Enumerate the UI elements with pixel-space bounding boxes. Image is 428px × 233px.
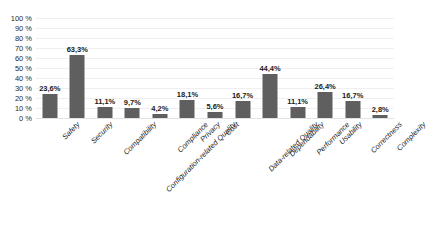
bar-group: 11,1% [284,18,312,118]
bar[interactable] [180,100,195,118]
bar[interactable] [373,115,388,118]
bar-group: 9,7% [119,18,147,118]
y-axis-tick-label: 10 % [15,104,32,113]
x-axis: SafetySecurityCompatibilityConfiguration… [36,120,394,230]
bar-value-label: 16,7% [232,91,253,100]
y-axis-tick-label: 30 % [15,84,32,93]
y-axis-tick-label: 40 % [15,74,32,83]
bar-value-label: 23,6% [39,84,60,93]
bar-group: 16,7% [339,18,367,118]
bar-value-label: 9,7% [124,98,141,107]
bar[interactable] [318,92,333,118]
bar-value-label: 5,6% [206,102,223,111]
bar[interactable] [207,112,222,118]
bar-value-label: 2,8% [372,105,389,114]
bar-value-label: 18,1% [177,90,198,99]
bar[interactable] [70,55,85,118]
y-axis-tick-label: 50 % [15,64,32,73]
bar-value-label: 11,1% [94,97,115,106]
y-axis-tick-label: 80 % [15,34,32,43]
y-axis-tick-label: 20 % [15,94,32,103]
bar[interactable] [263,74,278,118]
bar[interactable] [97,107,112,118]
bar-group: 5,6% [201,18,229,118]
bar-group: 23,6% [36,18,64,118]
bar[interactable] [125,108,140,118]
y-axis-tick-label: 0 % [19,114,32,123]
bar[interactable] [42,94,57,118]
bar[interactable] [290,107,305,118]
bar[interactable] [345,101,360,118]
bar-group: 16,7% [229,18,257,118]
bar-group: 2,8% [366,18,394,118]
bar-series: 23,6%63,3%11,1%9,7%4,2%18,1%5,6%16,7%44,… [36,18,394,118]
bar[interactable] [152,114,167,118]
bar-value-label: 26,4% [315,82,336,91]
bar-group: 18,1% [174,18,202,118]
bar-group: 11,1% [91,18,119,118]
bar-value-label: 63,3% [67,45,88,54]
x-axis-tick-label: Compatibility [121,120,158,157]
y-axis-tick-label: 60 % [15,54,32,63]
y-axis: 100 %90 %80 %70 %60 %50 %40 %30 %20 %10 … [0,18,34,118]
y-axis-tick-label: 90 % [15,24,32,33]
x-axis-tick-label: Safety [60,120,81,141]
bar-group: 4,2% [146,18,174,118]
y-axis-tick-label: 70 % [15,44,32,53]
bar-group: 44,4% [256,18,284,118]
bar-group: 63,3% [64,18,92,118]
bar-value-label: 4,2% [151,104,168,113]
y-axis-tick-label: 100 % [11,14,32,23]
bar-value-label: 44,4% [259,64,280,73]
bar-value-label: 16,7% [342,91,363,100]
bar[interactable] [235,101,250,118]
x-axis-tick-label: Security [89,120,115,146]
bar-value-label: 11,1% [287,97,308,106]
bar-group: 26,4% [311,18,339,118]
plot-area: 23,6%63,3%11,1%9,7%4,2%18,1%5,6%16,7%44,… [36,18,394,118]
